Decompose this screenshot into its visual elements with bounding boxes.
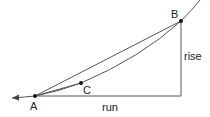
secant-line-ab — [35, 21, 181, 96]
chord-ac — [35, 83, 81, 96]
label-a: A — [30, 100, 38, 112]
point-b — [179, 19, 183, 23]
label-b: B — [171, 8, 178, 20]
label-c: C — [83, 84, 91, 96]
point-a — [33, 94, 37, 98]
label-run: run — [102, 101, 118, 113]
diagram-canvas: A B C rise run — [0, 0, 210, 117]
label-rise: rise — [184, 50, 202, 62]
secant-slope-diagram: A B C rise run — [0, 0, 210, 117]
